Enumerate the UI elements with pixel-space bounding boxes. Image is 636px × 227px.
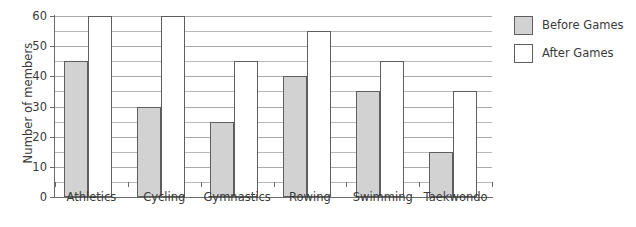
y-axis-tick-label: 40	[32, 69, 47, 83]
y-axis-tick	[50, 46, 55, 47]
plot-area: 0102030405060	[55, 16, 492, 197]
chart-legend: Before Games After Games	[514, 14, 636, 70]
x-axis-separator	[201, 182, 202, 187]
x-axis-separator	[274, 182, 275, 187]
y-axis-tick	[50, 76, 55, 77]
x-axis-category-label: Gymnastics	[203, 190, 270, 204]
x-axis-separator	[128, 182, 129, 187]
y-axis-tick-label: 60	[32, 9, 47, 23]
x-axis-category-label: Swimming	[353, 190, 413, 204]
legend-swatch-after-games	[514, 44, 533, 63]
y-axis-tick-label: 10	[32, 160, 47, 174]
y-axis-tick	[50, 107, 55, 108]
y-axis-tick-label: 20	[32, 130, 47, 144]
legend-label-before-games: Before Games	[542, 18, 623, 32]
x-axis-separator	[492, 182, 493, 187]
y-axis-tick	[50, 16, 55, 17]
y-axis-tick-label: 30	[32, 100, 47, 114]
bar-chart: Number of members 0102030405060 Athletic…	[0, 0, 636, 227]
x-axis-category-label: Cycling	[143, 190, 185, 204]
legend-item: After Games	[514, 42, 636, 64]
y-axis-tick-label: 0	[40, 190, 47, 204]
x-axis-category-label: Rowing	[289, 190, 331, 204]
x-axis-separator	[346, 182, 347, 187]
x-axis-separator	[55, 182, 56, 187]
x-axis-category-label: Taekwondo	[424, 190, 488, 204]
x-axis-category-label: Athletics	[67, 190, 117, 204]
y-axis-tick	[50, 137, 55, 138]
y-axis-ticks: 0102030405060	[55, 16, 492, 197]
y-axis-tick	[50, 197, 55, 198]
y-axis-tick-label: 50	[32, 39, 47, 53]
legend-item: Before Games	[514, 14, 636, 36]
legend-swatch-before-games	[514, 16, 533, 35]
legend-label-after-games: After Games	[542, 46, 614, 60]
y-axis-tick	[50, 167, 55, 168]
x-axis-separator	[419, 182, 420, 187]
